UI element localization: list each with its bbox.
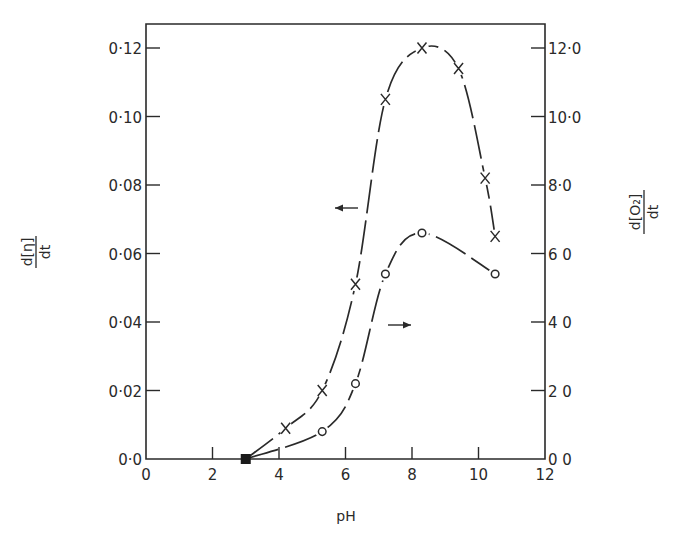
o-marker bbox=[415, 226, 429, 240]
svg-text:dt: dt bbox=[645, 204, 661, 219]
x-marker bbox=[415, 41, 429, 55]
x-tick-label: 8 bbox=[407, 466, 417, 484]
right-y-axis-title: d[O₂] dt bbox=[627, 190, 661, 234]
left-y-axis-ticks: 0·00·020·040·060·080·100·12 bbox=[109, 40, 160, 469]
x-marker bbox=[348, 277, 362, 291]
svg-text:dt: dt bbox=[37, 244, 53, 259]
left-y-tick-label: 0·06 bbox=[109, 246, 142, 264]
right-y-tick-label: 0 0 bbox=[548, 451, 572, 469]
left-arrow-icon bbox=[335, 205, 358, 212]
chart: 024681012 0·00·020·040·060·080·100·12 0 … bbox=[0, 0, 681, 540]
right-y-tick-label: 6 0 bbox=[548, 246, 572, 264]
o-marker bbox=[378, 267, 392, 281]
right-y-tick-label: 4 0 bbox=[548, 314, 572, 332]
left-y-tick-label: 0·0 bbox=[118, 451, 142, 469]
right-y-tick-label: 10·0 bbox=[548, 109, 581, 127]
x-tick-label: 2 bbox=[208, 466, 218, 484]
axes-box bbox=[146, 24, 545, 459]
x-marker bbox=[378, 92, 392, 106]
origin-marker bbox=[241, 454, 251, 464]
left-y-tick-label: 0·12 bbox=[109, 40, 142, 58]
viscosity-rate-curve bbox=[246, 46, 495, 459]
x-marker bbox=[478, 171, 492, 185]
x-tick-label: 0 bbox=[141, 466, 151, 484]
x-marker bbox=[279, 421, 293, 435]
x-marker bbox=[488, 229, 502, 243]
x-marker bbox=[315, 384, 329, 398]
o-marker bbox=[488, 267, 502, 281]
x-axis-title: pH bbox=[336, 508, 355, 524]
left-y-tick-label: 0·04 bbox=[109, 314, 142, 332]
series-curves bbox=[246, 46, 495, 459]
svg-text:d[O₂]: d[O₂] bbox=[627, 194, 643, 230]
right-y-axis-ticks: 0 02 04 06 08·010·012·0 bbox=[531, 40, 581, 469]
right-y-tick-label: 12·0 bbox=[548, 40, 581, 58]
right-y-tick-label: 2 0 bbox=[548, 383, 572, 401]
svg-text:d[η]: d[η] bbox=[19, 238, 35, 267]
right-arrow-icon bbox=[388, 322, 411, 329]
x-tick-label: 6 bbox=[341, 466, 351, 484]
left-y-tick-label: 0·02 bbox=[109, 383, 142, 401]
axis-arrows bbox=[335, 205, 411, 329]
x-tick-label: 4 bbox=[274, 466, 284, 484]
plot-frame bbox=[146, 24, 545, 459]
left-y-tick-label: 0·10 bbox=[109, 109, 142, 127]
left-y-axis-title: d[η] dt bbox=[19, 236, 53, 268]
o-marker bbox=[348, 377, 362, 391]
left-y-tick-label: 0·08 bbox=[109, 177, 142, 195]
right-y-tick-label: 8·0 bbox=[548, 177, 572, 195]
o-marker bbox=[315, 425, 329, 439]
x-tick-label: 10 bbox=[469, 466, 488, 484]
x-axis-ticks: 024681012 bbox=[141, 447, 554, 484]
x-marker bbox=[452, 62, 466, 76]
